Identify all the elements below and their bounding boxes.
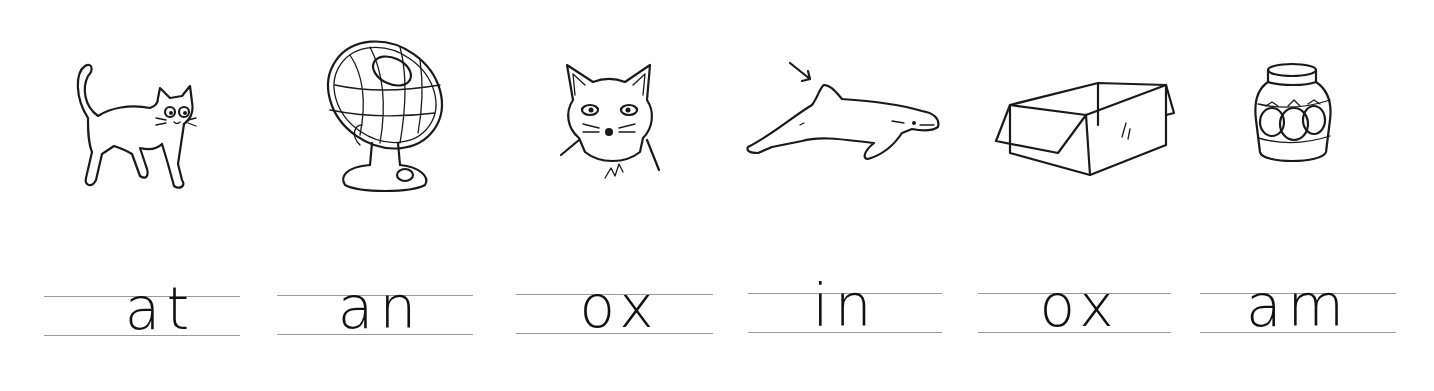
dolphin-picture	[742, 55, 947, 165]
writing-slot-3: ox	[516, 294, 713, 334]
word-am: am	[1200, 277, 1396, 335]
writing-slot-6: am	[1200, 293, 1396, 333]
word-at: at	[44, 280, 240, 338]
word-an: an	[277, 279, 473, 337]
writing-slot-1: at	[44, 296, 240, 336]
word-ox: ox	[516, 278, 713, 336]
fox-picture	[555, 60, 665, 185]
fox-icon	[555, 60, 665, 185]
writing-slot-5: ox	[978, 293, 1171, 333]
jam-jar-picture	[1250, 60, 1335, 170]
box-icon	[990, 75, 1180, 180]
word-ox-2: ox	[978, 277, 1171, 335]
box-picture	[990, 75, 1180, 180]
cat-picture	[70, 58, 200, 198]
jam-jar-icon	[1250, 60, 1335, 170]
cat-icon	[70, 58, 200, 198]
fan-icon	[300, 25, 460, 195]
word-in: in	[748, 277, 942, 335]
fan-picture	[300, 25, 460, 195]
writing-slot-4: in	[748, 293, 942, 333]
writing-slot-2: an	[277, 295, 473, 335]
dolphin-fin-icon	[742, 55, 947, 165]
